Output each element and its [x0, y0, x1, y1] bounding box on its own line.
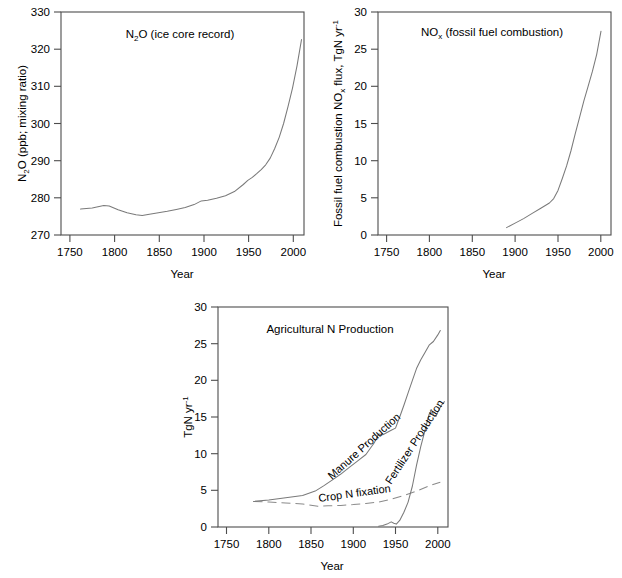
x-tick-label: 1900 [502, 246, 528, 258]
x-tick-label: 2000 [281, 246, 307, 258]
y-axis-title: N2O (ppb; mixing ratio) [16, 65, 31, 182]
chart-panel-agricultural-n: 30 25 20 15 10 5 0 1750 1800 1850 1900 1… [180, 290, 510, 578]
y-tick-label: 5 [201, 484, 207, 496]
svg-text:TgN yr-1: TgN yr-1 [181, 396, 194, 438]
x-axis-title: Year [320, 560, 343, 572]
y-tick-label: 280 [31, 192, 50, 204]
agricultural-n-chart-svg: 30 25 20 15 10 5 0 1750 1800 1850 1900 1… [180, 290, 510, 578]
x-tick-label: 1950 [236, 246, 262, 258]
y-axis-title: TgN yr-1 [181, 396, 194, 438]
nox-y-tick-labels: 30 25 20 15 10 5 0 [354, 6, 367, 241]
n2o-plot-frame [61, 12, 304, 235]
panel-title-pre: NO [421, 26, 438, 38]
agn-x-ticks [227, 527, 438, 534]
y-tick-label: 0 [201, 521, 207, 533]
x-tick-label: 2000 [425, 538, 451, 550]
series-line-nox [507, 31, 602, 227]
nox-plot-frame [378, 12, 611, 235]
x-tick-label: 1800 [417, 246, 443, 258]
n2o-y-ticks [54, 12, 61, 235]
nox-chart-svg: 30 25 20 15 10 5 0 1750 1800 1850 1900 1… [320, 0, 622, 290]
y-axis-title-pre: Fossil fuel combustion NO [332, 93, 344, 227]
series-label-crop-n-fixation-text: Crop N fixation [318, 482, 392, 504]
x-tick-label: 1750 [57, 246, 83, 258]
y-tick-label: 30 [194, 301, 207, 313]
agn-x-tick-labels: 1750 1800 1850 1900 1950 2000 [214, 538, 451, 550]
y-tick-label: 5 [361, 192, 367, 204]
n2o-x-ticks [70, 235, 293, 242]
panel-title-post: (fossil fuel combustion) [442, 26, 563, 38]
y-tick-label: 25 [194, 338, 207, 350]
x-tick-label: 1900 [191, 246, 217, 258]
y-tick-label: 20 [194, 374, 207, 386]
svg-text:N2O (ppb; mixing ratio): N2O (ppb; mixing ratio) [16, 65, 31, 182]
y-tick-label: 15 [194, 411, 207, 423]
y-axis-title: Fossil fuel combustion NOx flux, TgN yr-… [331, 19, 347, 227]
panel-title: Agricultural N Production [266, 323, 393, 335]
series-label-fertilizer: Fertilizer Production [383, 398, 446, 487]
x-tick-label: 1850 [147, 246, 173, 258]
n2o-x-tick-labels: 1750 1800 1850 1900 1950 2000 [57, 246, 306, 258]
y-tick-label: 270 [31, 229, 50, 241]
y-axis-title-pre: N [16, 174, 28, 182]
y-axis-title-post: O (ppb; mixing ratio) [16, 65, 28, 169]
n2o-chart-svg: 330 320 310 300 290 280 270 1750 1800 18… [0, 0, 320, 290]
nox-x-ticks [387, 235, 601, 242]
panel-title-post: O (ice core record) [138, 28, 234, 40]
y-tick-label: 25 [354, 43, 367, 55]
panel-title: N2O (ice core record) [126, 28, 235, 43]
x-tick-label: 2000 [588, 246, 614, 258]
agn-y-ticks [211, 307, 218, 527]
x-tick-label: 1850 [298, 538, 324, 550]
y-axis-title-sup: -1 [181, 396, 190, 404]
x-tick-label: 1950 [383, 538, 409, 550]
y-tick-label: 330 [31, 6, 50, 18]
y-axis-title-pre: TgN yr [182, 403, 194, 438]
y-tick-label: 320 [31, 43, 50, 55]
agn-y-tick-labels: 30 25 20 15 10 5 0 [194, 301, 207, 533]
y-tick-label: 15 [354, 118, 367, 130]
y-tick-label: 310 [31, 80, 50, 92]
y-axis-title-mid: flux, TgN yr [332, 27, 344, 89]
x-tick-label: 1850 [460, 246, 486, 258]
chart-panel-nox: 30 25 20 15 10 5 0 1750 1800 1850 1900 1… [320, 0, 622, 290]
x-tick-label: 1950 [545, 246, 571, 258]
y-tick-label: 290 [31, 155, 50, 167]
series-line-n2o [81, 40, 302, 216]
x-tick-label: 1750 [374, 246, 400, 258]
x-tick-label: 1800 [102, 246, 128, 258]
chart-panel-n2o: 330 320 310 300 290 280 270 1750 1800 18… [0, 0, 320, 290]
y-tick-label: 300 [31, 118, 50, 130]
y-tick-label: 10 [194, 448, 207, 460]
x-axis-title: Year [482, 268, 505, 280]
y-tick-label: 20 [354, 80, 367, 92]
x-tick-label: 1750 [214, 538, 240, 550]
series-label-fertilizer-text: Fertilizer Production [383, 398, 446, 487]
y-axis-title-sup: -1 [331, 19, 340, 27]
nox-x-tick-labels: 1750 1800 1850 1900 1950 2000 [374, 246, 614, 258]
y-tick-label: 30 [354, 6, 367, 18]
series-line-manure [254, 331, 441, 502]
nox-y-ticks [371, 12, 378, 235]
panel-title: NOx (fossil fuel combustion) [421, 26, 563, 41]
y-tick-label: 0 [361, 229, 367, 241]
n2o-y-tick-labels: 330 320 310 300 290 280 270 [31, 6, 50, 241]
x-tick-label: 1800 [256, 538, 282, 550]
panel-title-pre: N [126, 28, 134, 40]
y-tick-label: 10 [354, 155, 367, 167]
x-tick-label: 1900 [341, 538, 367, 550]
x-axis-title: Year [170, 268, 193, 280]
svg-text:Fossil fuel combustion NOx fl: Fossil fuel combustion NOx flux, TgN yr-… [331, 19, 347, 227]
series-label-crop-n-fixation: Crop N fixation [318, 482, 392, 504]
